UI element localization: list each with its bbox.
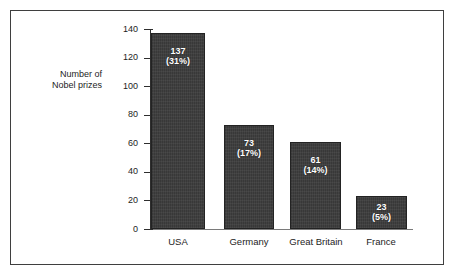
bar-value-number-germany: 73: [225, 138, 273, 148]
x-axis-line: [150, 229, 413, 230]
y-tick-label-80: 80: [104, 110, 138, 119]
bar-value-france: 23 (5%): [357, 202, 406, 222]
chart-figure: Number of Nobel prizes 140 120 100 80 60…: [0, 0, 454, 278]
x-category-label-germany: Germany: [214, 236, 284, 247]
y-tick-label-100: 100: [104, 82, 138, 91]
bar-value-usa: 137 (31%): [152, 46, 204, 66]
bar-value-percent-usa: (31%): [152, 56, 204, 66]
y-tick-label-0: 0: [104, 225, 138, 234]
x-category-label-france: France: [346, 236, 416, 247]
y-tick-label-wrap-0: 0: [104, 225, 138, 234]
y-tick-label-140: 140: [104, 25, 138, 34]
y-tick-label-wrap-140: 140: [104, 25, 138, 34]
bar-france: 23 (5%): [356, 196, 407, 229]
y-tick-label-60: 60: [104, 139, 138, 148]
y-tick-label-wrap-60: 60: [104, 139, 138, 148]
bar-value-great-britain: 61 (14%): [291, 155, 340, 175]
bar-value-percent-great-britain: (14%): [291, 165, 340, 175]
y-axis-title-line-2: Nobel prizes: [38, 80, 102, 91]
x-category-label-usa: USA: [143, 236, 213, 247]
bar-value-percent-france: (5%): [357, 212, 406, 222]
y-tick-label-wrap-100: 100: [104, 82, 138, 91]
y-tick-label-wrap-20: 20: [104, 196, 138, 205]
y-tick-mark-0: [144, 229, 153, 230]
y-axis-title: Number of Nobel prizes: [38, 69, 102, 91]
y-tick-label-wrap-40: 40: [104, 167, 138, 176]
plot-area: Number of Nobel prizes 140 120 100 80 60…: [0, 0, 454, 278]
y-tick-label-wrap-120: 120: [104, 53, 138, 62]
y-tick-label-120: 120: [104, 53, 138, 62]
y-tick-mark-140: [144, 29, 153, 30]
y-axis-title-line-1: Number of: [38, 69, 102, 80]
bar-usa: 137 (31%): [151, 33, 205, 229]
y-tick-label-20: 20: [104, 196, 138, 205]
bar-value-number-usa: 137: [152, 46, 204, 56]
bar-value-number-france: 23: [357, 202, 406, 212]
y-tick-label-40: 40: [104, 167, 138, 176]
bar-germany: 73 (17%): [224, 125, 274, 229]
bar-value-percent-germany: (17%): [225, 148, 273, 158]
bar-value-number-great-britain: 61: [291, 155, 340, 165]
y-tick-label-wrap-80: 80: [104, 110, 138, 119]
x-category-label-great-britain: Great Britain: [275, 236, 357, 247]
bar-value-germany: 73 (17%): [225, 138, 273, 158]
bar-great-britain: 61 (14%): [290, 142, 341, 229]
